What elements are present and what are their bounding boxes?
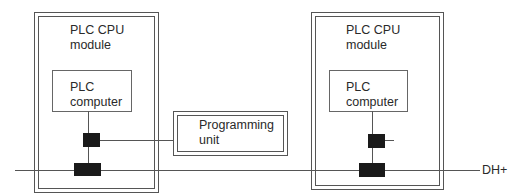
right-bus-connector bbox=[359, 163, 385, 177]
programming-unit-link bbox=[100, 140, 173, 141]
right-connector-stub bbox=[385, 140, 394, 141]
bus-label: DH+ bbox=[482, 163, 507, 178]
programming-unit-label: Programming unit bbox=[199, 118, 274, 148]
left-bus-connector bbox=[74, 163, 101, 176]
left-plc-computer-label: PLC computer bbox=[70, 80, 122, 110]
left-module-title: PLC CPU module bbox=[70, 23, 124, 53]
right-plc-computer-label: PLC computer bbox=[346, 80, 398, 110]
left-small-connector bbox=[83, 133, 100, 147]
right-small-connector bbox=[368, 134, 385, 148]
right-module-title: PLC CPU module bbox=[346, 23, 400, 53]
